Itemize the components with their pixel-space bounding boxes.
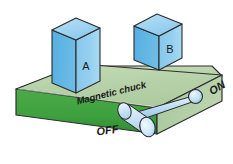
block-a-label: A: [82, 60, 90, 72]
workpiece-block-a: A: [52, 18, 100, 93]
lever-off-label: OFF: [96, 123, 120, 138]
lever-on-knob[interactable]: [189, 90, 203, 104]
block-b-label: B: [166, 43, 173, 55]
workpiece-block-b: B: [134, 14, 182, 70]
magnetic-chuck-diagram: A B Magnetic chuck OFF: [0, 0, 233, 164]
block-a-side-face: [52, 30, 76, 93]
diagram-canvas: A B Magnetic chuck OFF: [0, 0, 233, 164]
